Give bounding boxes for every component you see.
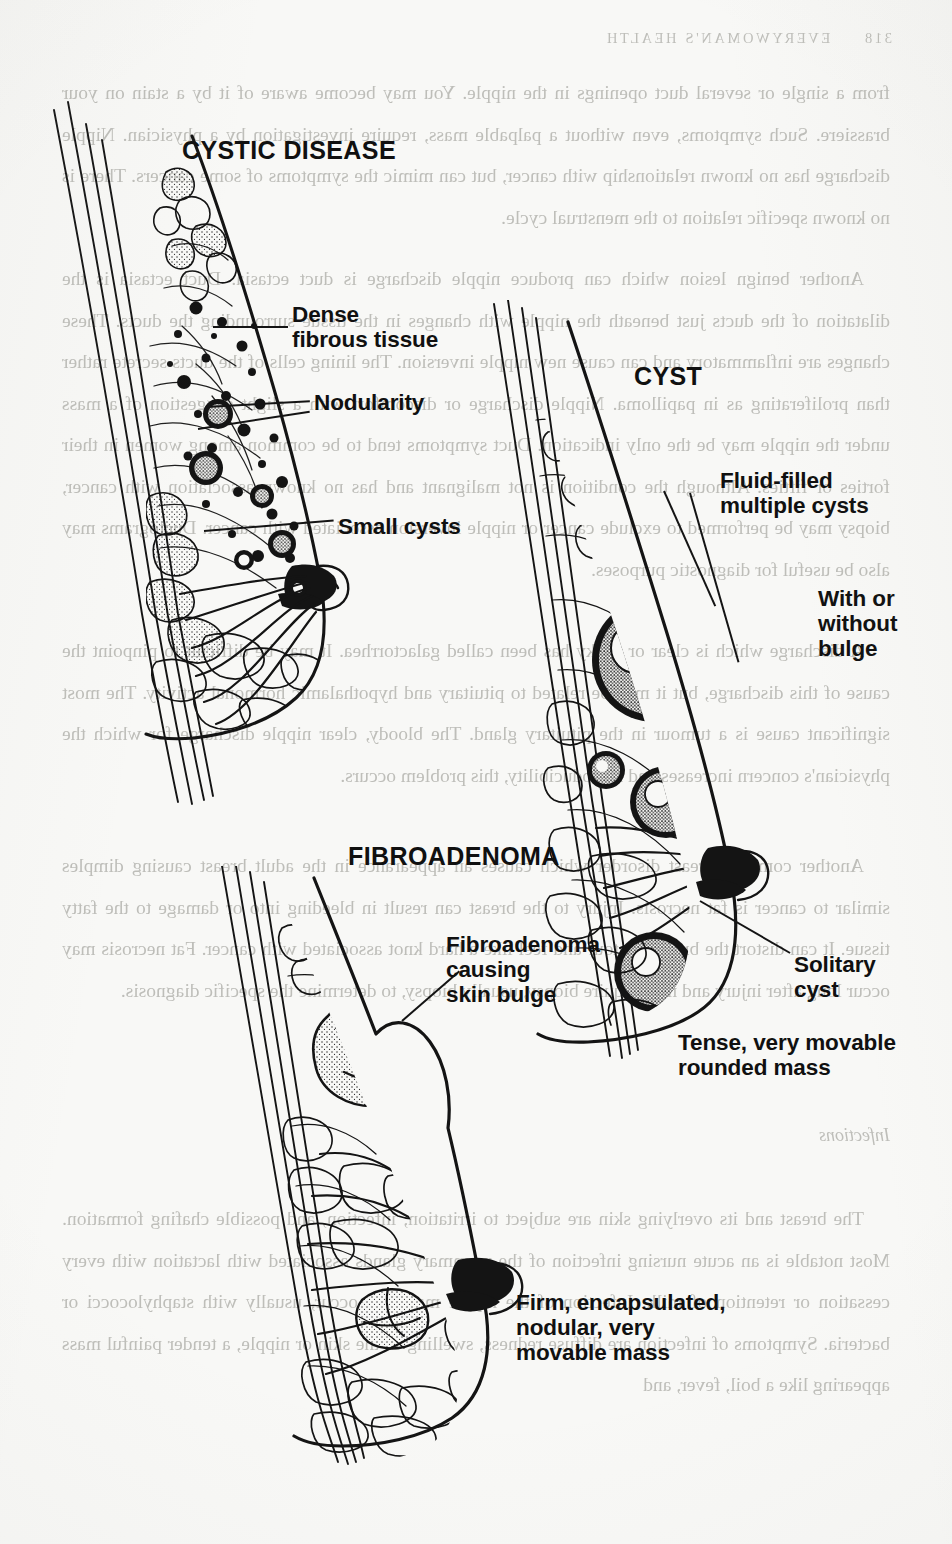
scanned-book-page: 318 EVERYWOMAN'S HEALTH from a single or… bbox=[0, 0, 952, 1544]
panel-title-fibroadenoma: FIBROADENOMA bbox=[348, 842, 560, 870]
leader-dense-fibrous-tissue bbox=[213, 326, 288, 328]
callout-solitary-cyst: Solitary cyst bbox=[794, 952, 876, 1002]
callout-firm-encapsulated-mass: Firm, encapsulated, nodular, very movabl… bbox=[516, 1290, 725, 1366]
cystic-disease-illustration bbox=[46, 96, 376, 816]
callout-dense-fibrous-tissue: Dense fibrous tissue bbox=[292, 302, 438, 352]
callout-fibroadenoma-skin-bulge: Fibroadenoma causing skin bulge bbox=[446, 932, 600, 1008]
page-number: 318 bbox=[862, 30, 892, 46]
callout-small-cysts: Small cysts bbox=[338, 514, 461, 539]
verso-section-heading: Infections bbox=[819, 1125, 890, 1146]
callout-nodularity: Nodularity bbox=[314, 390, 424, 415]
book-title: EVERYWOMAN'S HEALTH bbox=[604, 30, 830, 46]
callout-tense-movable-mass: Tense, very movable rounded mass bbox=[678, 1030, 896, 1080]
running-head: 318 EVERYWOMAN'S HEALTH bbox=[62, 30, 892, 47]
panel-title-cyst: CYST bbox=[634, 362, 702, 390]
callout-fluid-filled-multiple-cysts: Fluid-filled multiple cysts bbox=[720, 468, 869, 518]
callout-with-or-without-bulge: With or without bulge bbox=[818, 586, 897, 662]
panel-title-cystic-disease: CYSTIC DISEASE bbox=[182, 136, 396, 164]
